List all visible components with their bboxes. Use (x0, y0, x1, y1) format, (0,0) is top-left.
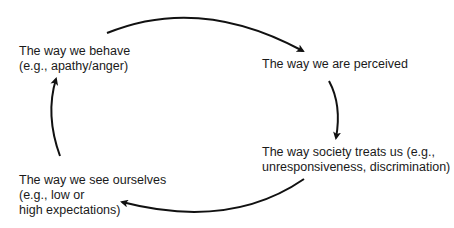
arrow-self-to-behave (51, 79, 60, 156)
arrow-behave-to-perceived (107, 18, 303, 51)
arrow-society-to-self (122, 179, 304, 212)
cycle-arrows (0, 0, 454, 228)
arrow-perceived-to-society (329, 81, 338, 138)
